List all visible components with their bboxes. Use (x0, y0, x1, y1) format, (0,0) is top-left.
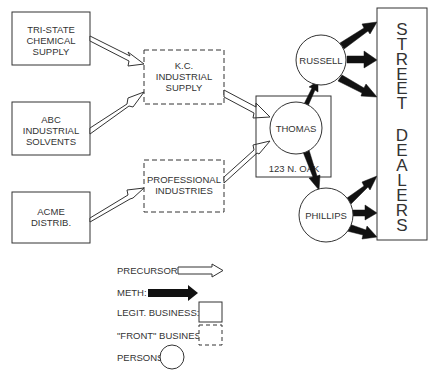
front-label-line: INDUSTRIES (155, 185, 213, 196)
supplier-label-line: INDUSTRIAL (23, 125, 79, 136)
supplier-abc: ABC INDUSTRIAL SOLVENTS (12, 102, 90, 155)
front-label-line: PROFESSIONAL (147, 174, 221, 185)
person-label: RUSSELL (299, 55, 342, 66)
meth-arrow-icon (347, 224, 377, 239)
person-thomas: THOMAS (270, 102, 322, 154)
person-russell: RUSSELL (296, 35, 346, 85)
person-phillips: PHILLIPS (299, 188, 353, 242)
precursor-arrow-icon (90, 36, 144, 66)
supplier-label-line: SOLVENTS (26, 136, 76, 147)
legend-persons-label: PERSONS: (117, 352, 166, 363)
meth-arrow-icon (340, 22, 377, 49)
legend-meth-label: METH: (117, 287, 147, 298)
diagram-canvas: TRI-STATE CHEMICAL SUPPLY ABC INDUSTRIAL… (0, 0, 437, 375)
supplier-label-line: CHEMICAL (26, 35, 75, 46)
dealers-letter: S (396, 216, 407, 235)
legend-meth-arrow-icon (148, 285, 198, 301)
supplier-label-line: ACME (37, 206, 64, 217)
supplier-tri-state: TRI-STATE CHEMICAL SUPPLY (12, 12, 90, 65)
front-label-line: INDUSTRIAL (156, 71, 212, 82)
supplier-label-line: ABC (41, 114, 61, 125)
precursor-arrow-icon (90, 188, 144, 222)
meth-arrow-icon (338, 75, 377, 97)
front-label-line: K.C. (175, 60, 193, 71)
legend-legit-label: LEGIT. BUSINESS: (117, 307, 199, 318)
supplier-acme: ACME DISTRIB. (12, 192, 90, 243)
supplier-label-line: SUPPLY (33, 46, 70, 57)
front-label-line: SUPPLY (166, 82, 203, 93)
front-professional: PROFESSIONAL INDUSTRIES (144, 160, 224, 212)
legend-legit-box-icon (199, 302, 222, 322)
legend-person-circle-icon (160, 345, 184, 369)
precursor-arrow-icon (90, 92, 144, 134)
precursor-arrow-icon (224, 90, 270, 118)
person-label: PHILLIPS (305, 210, 347, 221)
legend-front-box-icon (199, 325, 222, 345)
meth-arrow-icon (353, 205, 377, 220)
supplier-label-line: DISTRIB. (31, 217, 71, 228)
meth-arrow-icon (347, 176, 377, 204)
legend: PRECURSORS: METH: LEGIT. BUSINESS: "FRON… (117, 264, 223, 369)
legend-precursors-label: PRECURSORS: (117, 265, 187, 276)
front-kc: K.C. INDUSTRIAL SUPPLY (144, 50, 224, 104)
supplier-label-line: TRI-STATE (27, 24, 75, 35)
person-label: THOMAS (276, 123, 317, 134)
legend-front-label: "FRONT" BUSINESS: (117, 330, 210, 341)
meth-arrow-icon (347, 51, 377, 68)
dealers-letter: T (397, 94, 407, 113)
street-dealers: S T R E E T D E A L E R S (377, 8, 427, 240)
